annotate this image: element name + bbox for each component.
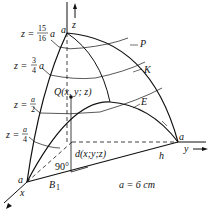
y-arrowhead-icon [202,147,208,151]
label-e: E [140,96,147,107]
h-label: h [159,150,164,161]
angle-label: 90° [55,161,69,172]
tick [51,40,59,47]
frac-den: 2 [31,105,35,114]
frac-num: a [23,125,27,134]
frac-suffix: a [39,60,44,71]
frac-num: 3 [32,56,36,65]
x-arrowhead-icon [6,203,12,209]
z-axis-label: z [71,19,76,30]
level-curve-3-4 [50,62,145,79]
y-axis-label: y [183,143,189,154]
point-q-label: Q(x, y; z) [54,86,92,98]
frac-den: 16 [38,34,46,43]
dimension-label: a = 6 cm [119,179,155,190]
base-subscript: 1 [56,183,60,192]
apex-label: a [61,24,66,35]
level-label-lhs: z = [13,60,27,71]
diagram: z y x a a a P K E z = 15 16 a [0,0,210,214]
frac-num: a [31,95,35,104]
x-corner-label: a [18,174,23,185]
y-corner-label: a [179,131,184,142]
label-p: P [139,38,146,49]
level-label-lhs: z = [20,28,34,39]
frac-den: 4 [23,135,27,144]
frac-suffix: a [50,28,55,39]
base-label: B [49,179,55,190]
leader-k [133,69,142,72]
frac-num: 15 [38,24,46,33]
level-label-lhs: z = [5,129,19,140]
distance-label: d(x;y;z) [75,148,107,160]
z-arrowhead-icon [73,3,77,9]
leader-e [133,104,140,108]
x-axis-label: x [19,187,25,198]
frac-den: 4 [32,66,36,75]
level-label-lhs: z = [13,99,27,110]
label-k: K [143,64,152,75]
level-curve-15-16 [59,38,128,49]
